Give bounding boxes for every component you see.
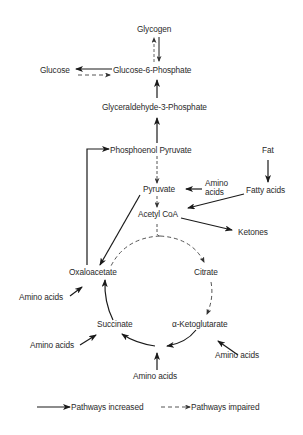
node-alpha-ketoglutarate: α-Ketoglutarate bbox=[172, 320, 227, 328]
node-oxaloacetate: Oxaloacetate bbox=[69, 268, 117, 276]
node-ketones: Ketones bbox=[238, 228, 268, 236]
arrow-acetylcoa-to-citrate bbox=[160, 236, 204, 262]
node-citrate: Citrate bbox=[194, 268, 218, 276]
legend-pathways-impaired: Pathways impaired bbox=[191, 403, 259, 411]
node-pyruvate: Pyruvate bbox=[143, 185, 175, 193]
node-amino-acids-succinate: Amino acids bbox=[30, 341, 74, 349]
arrow-alphakg-to-junction bbox=[167, 330, 196, 346]
node-fat: Fat bbox=[262, 146, 274, 154]
node-phosphoenol-pyruvate: Phosphoenol Pyruvate bbox=[110, 146, 192, 154]
arrow-citrate-to-alphakg bbox=[207, 282, 212, 314]
arrow-amino-to-succinate bbox=[80, 335, 96, 345]
node-glycogen: Glycogen bbox=[137, 25, 171, 33]
node-amino-acids-bottom: Amino acids bbox=[133, 372, 177, 380]
arrow-acetylcoa-to-oxaloacetate bbox=[110, 236, 160, 268]
arrow-succinate-to-oxaloacetate bbox=[105, 280, 113, 320]
node-glyceraldehyde-3-phosphate: Glyceraldehyde-3-Phosphate bbox=[102, 103, 207, 111]
arrow-pyruvate-to-oxaloacetate bbox=[100, 195, 140, 265]
arrow-acetylcoa-to-ketones bbox=[181, 218, 232, 230]
node-amino-acids-alpha-kg: Amino acids bbox=[215, 351, 259, 359]
node-amino-acids-pyruvate: Amino acids bbox=[205, 179, 228, 197]
node-glucose-6-phosphate: Glucose-6-Phosphate bbox=[113, 66, 191, 74]
node-glucose: Glucose bbox=[40, 66, 70, 74]
node-succinate: Succinate bbox=[97, 320, 133, 328]
node-fatty-acids: Fatty acids bbox=[246, 186, 285, 194]
metabolic-pathway-diagram: Glycogen Glucose Glucose-6-Phosphate Gly… bbox=[0, 0, 303, 435]
arrow-oxaloacetate-to-pep bbox=[87, 149, 109, 265]
node-amino-acids-pyruvate-line2: acids bbox=[205, 188, 228, 197]
arrow-junction-to-succinate bbox=[122, 334, 155, 346]
legend-pathways-increased: Pathways increased bbox=[71, 403, 143, 411]
node-amino-acids-oxaloacetate: Amino acids bbox=[19, 293, 63, 301]
arrow-acetylcoa-junction bbox=[157, 224, 160, 236]
node-acetyl-coa: Acetyl CoA bbox=[138, 210, 178, 218]
arrow-amino-to-oxaloacetate bbox=[70, 287, 82, 296]
